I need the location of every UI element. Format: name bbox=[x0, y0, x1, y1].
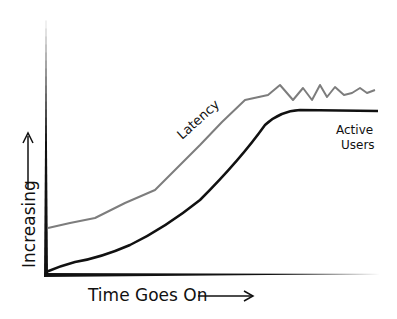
y-axis-label: Increasing bbox=[19, 180, 39, 268]
active-label: Active bbox=[336, 123, 373, 137]
x-axis-label: Time Goes On bbox=[87, 285, 207, 305]
y-axis bbox=[44, 16, 48, 276]
active-users-line bbox=[46, 110, 378, 272]
users-label: Users bbox=[341, 138, 375, 152]
latency-label: Latency bbox=[174, 96, 222, 142]
chart: Latency Active Users Increasing Time Goe… bbox=[0, 0, 397, 319]
x-axis bbox=[44, 273, 380, 277]
